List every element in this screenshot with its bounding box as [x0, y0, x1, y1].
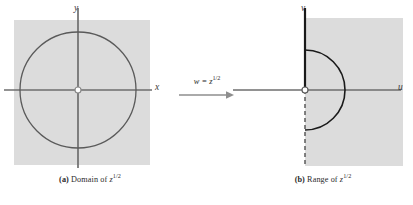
transform-arrow-icon	[178, 88, 236, 102]
panel-domain: y x (a) Domain of z1/2	[0, 0, 180, 205]
transform-label: w = z1/2	[178, 74, 236, 86]
figure-container: y x (a) Domain of z1/2 w = z1/2	[0, 0, 413, 205]
range-u-axis-label: u	[398, 82, 403, 92]
caption-domain-text: Domain of	[71, 175, 107, 184]
domain-y-axis-label: y	[74, 3, 78, 13]
caption-range-text: Range of	[307, 175, 338, 184]
caption-domain-tag: (a)	[59, 175, 69, 184]
domain-diagram	[0, 0, 180, 172]
caption-range: (b) Range of z1/2	[233, 172, 413, 184]
transform-arrow-block: w = z1/2	[178, 74, 236, 102]
caption-range-tag: (b)	[295, 175, 305, 184]
caption-domain: (a) Domain of z1/2	[0, 172, 180, 184]
domain-origin-marker	[75, 87, 81, 93]
domain-x-axis-label: x	[155, 82, 159, 92]
domain-shaded-region	[14, 20, 150, 165]
range-v-axis-label: v	[301, 3, 305, 13]
transform-label-exponent: 1/2	[212, 74, 220, 81]
transform-label-equals: =	[201, 77, 207, 86]
transform-label-lhs: w	[194, 77, 200, 86]
range-shaded-region	[305, 18, 403, 166]
caption-range-exponent: 1/2	[343, 172, 351, 179]
panel-range: v u (b) Range of z1/2	[233, 0, 413, 205]
range-origin-marker	[302, 87, 308, 93]
range-diagram	[233, 0, 413, 172]
caption-domain-exponent: 1/2	[113, 172, 121, 179]
